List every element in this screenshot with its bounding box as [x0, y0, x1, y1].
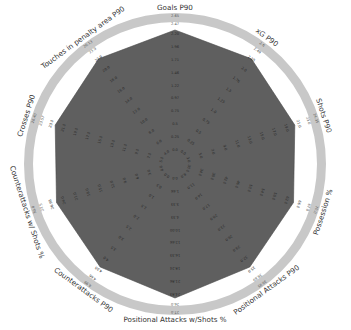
- tick-label: 26.98: [48, 198, 55, 210]
- tick-label: 2.65: [171, 14, 179, 18]
- tick-label: 21.0: [295, 119, 301, 129]
- axis-label-goals: Goals P90: [157, 3, 193, 12]
- axis-label-positional-attacks-shots: Positional Attacks w/Shots %: [123, 315, 226, 324]
- tick-label: 0.25: [171, 135, 179, 139]
- tick-label: 0.0: [172, 148, 178, 152]
- tick-label: 16.33: [170, 253, 180, 257]
- tick-label: 4.33: [171, 215, 179, 219]
- tick-label: 26.0: [170, 302, 179, 306]
- tick-label: 10.00: [169, 228, 180, 232]
- tick-label: 21.86: [169, 279, 180, 283]
- tick-label: 27.0: [170, 310, 179, 314]
- radar-chart: 0.00.250.50.750.971.221.461.711.962.202.…: [0, 0, 351, 330]
- tick-label: 23.0: [48, 119, 54, 129]
- tick-label: 0.0: [171, 176, 177, 180]
- tick-label: 24.83: [170, 292, 180, 296]
- tick-label: 0.75: [171, 109, 179, 113]
- tick-label: 1.71: [171, 58, 179, 62]
- tick-label: 2.20: [171, 32, 180, 36]
- tick-label: 1.96: [171, 45, 180, 49]
- tick-label: 1.66: [170, 189, 179, 193]
- tick-label: 12.66: [169, 240, 180, 244]
- tick-label: 1.22: [171, 84, 179, 88]
- tick-label: 0.97: [171, 96, 179, 100]
- tick-label: 2.47: [171, 22, 179, 26]
- tick-label: 66.0: [295, 200, 301, 210]
- tick-label: 18.24: [169, 266, 180, 270]
- tick-label: 3.33: [171, 202, 179, 206]
- tick-label: 1.46: [171, 71, 180, 75]
- tick-label: 0.5: [172, 122, 178, 126]
